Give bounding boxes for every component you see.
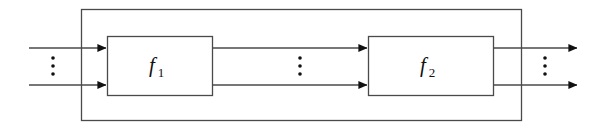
block-diagram-figure: f 1 f 2 [0, 0, 598, 130]
function-block-f2: f 2 [369, 37, 494, 96]
interconnect-signal-group [212, 48, 367, 85]
input-ellipsis-icon [51, 56, 55, 76]
diagram-canvas: f 1 f 2 [0, 0, 598, 130]
middle-ellipsis-icon [298, 56, 302, 76]
function-block-f1: f 1 [108, 37, 213, 96]
function-block-f1-subscript: 1 [158, 65, 165, 80]
output-signal-group [493, 48, 577, 85]
input-signal-group [29, 48, 106, 85]
output-ellipsis-icon [543, 56, 547, 76]
function-block-f2-subscript: 2 [429, 65, 436, 80]
